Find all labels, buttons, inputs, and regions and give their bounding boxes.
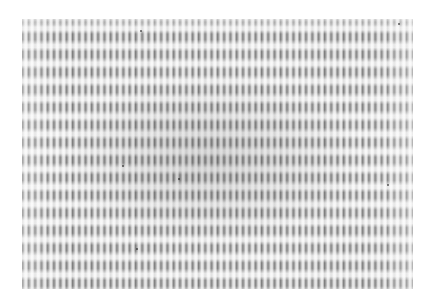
dust-speck xyxy=(387,184,389,186)
dust-speck xyxy=(136,248,138,250)
top-edge-fade xyxy=(22,19,413,289)
dust-speck xyxy=(122,165,124,167)
dust-speck xyxy=(178,178,180,180)
dust-speck xyxy=(140,30,142,32)
fringe-pattern-photo xyxy=(22,19,413,289)
dust-speck xyxy=(398,23,400,25)
